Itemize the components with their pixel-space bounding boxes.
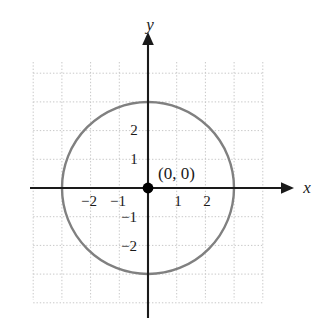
graph-figure: y x −2 −1 1 2 2 1 −1 −2 (0, 0)	[0, 0, 326, 324]
y-tick-label-neg2: −2	[121, 239, 137, 254]
x-tick-label-neg1: −1	[110, 194, 126, 209]
x-tick-label-neg2: −2	[81, 194, 97, 209]
coordinate-plane-svg	[0, 0, 326, 324]
axis-lines	[30, 45, 281, 318]
y-tick-label-1: 1	[130, 152, 138, 167]
y-axis-label: y	[146, 16, 154, 33]
y-axis-arrowhead	[142, 32, 154, 45]
y-tick-label-2: 2	[130, 123, 138, 138]
y-tick-label-neg1: −1	[121, 210, 137, 225]
x-tick-label-1: 1	[174, 194, 182, 209]
x-axis-arrowhead	[281, 182, 294, 194]
origin-point-label: (0, 0)	[158, 165, 195, 182]
x-axis-label: x	[303, 179, 311, 196]
origin-point-marker	[143, 183, 154, 194]
x-tick-label-2: 2	[203, 194, 211, 209]
